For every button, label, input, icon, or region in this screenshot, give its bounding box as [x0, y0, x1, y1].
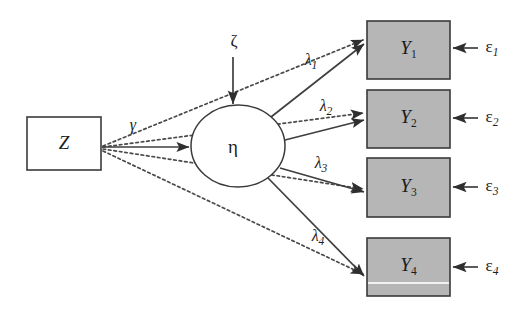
label-lambda2: λ2 — [319, 97, 333, 117]
node-eta-label: η — [228, 136, 238, 157]
label-gamma: γ — [130, 116, 137, 134]
error-label-epsilon4: ε4 — [486, 256, 499, 277]
error-label-epsilon2: ε2 — [486, 107, 499, 128]
label-lambda3: λ3 — [314, 154, 328, 174]
loading-path-lambda1 — [271, 44, 364, 117]
node-z-label: Z — [59, 132, 70, 153]
label-zeta: ζ — [230, 31, 237, 50]
node-eta-ellipse[interactable] — [191, 105, 285, 187]
path-diagram-svg: Z η Y1 Y2 Y3 Y4 ε1 ε2 ε3 ε4 — [0, 0, 523, 317]
error-label-epsilon3: ε3 — [486, 176, 499, 197]
indicator-boxes: Y1 Y2 Y3 Y4 — [367, 21, 450, 296]
error-label-epsilon1: ε1 — [486, 37, 499, 58]
diagram-canvas: Z η Y1 Y2 Y3 Y4 ε1 ε2 ε3 ε4 — [0, 0, 523, 317]
label-lambda4: λ4 — [311, 227, 325, 247]
label-lambda1: λ1 — [304, 51, 318, 71]
loading-path-lambda2 — [285, 120, 364, 140]
error-terms: ε1 ε2 ε3 ε4 — [453, 37, 499, 277]
